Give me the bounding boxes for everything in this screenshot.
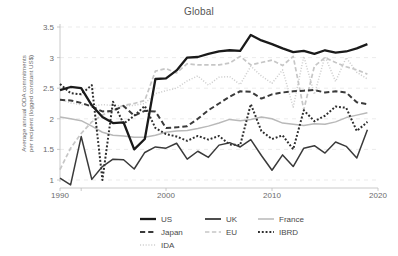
series-line-ida [60, 56, 367, 107]
legend-label-us[interactable]: US [161, 215, 172, 224]
x-tick-label: 2000 [157, 191, 175, 200]
y-axis-title: Average annual ODA commitmentsper recipi… [20, 55, 34, 152]
y-tick-label: 3.5 [43, 23, 55, 32]
legend-label-eu[interactable]: EU [226, 228, 237, 237]
legend-label-ibrd[interactable]: IBRD [279, 228, 298, 237]
y-tick-label: 1 [50, 176, 55, 185]
x-tick-label: 2010 [263, 191, 281, 200]
legend-label-uk[interactable]: UK [226, 215, 238, 224]
series-line-france [60, 113, 367, 137]
y-tick-label: 3 [50, 54, 55, 63]
legend-label-japan[interactable]: Japan [161, 228, 183, 237]
series-line-japan [60, 90, 367, 128]
legend-label-ida[interactable]: IDA [161, 241, 175, 250]
x-tick-label: 1990 [51, 191, 69, 200]
x-tick-labels: 1990200020102020 [51, 188, 387, 200]
y-tick-label: 2 [50, 115, 55, 124]
chart-root: Global 11.522.533.5 1990200020102020 Ave… [0, 0, 398, 256]
chart-legend: USUKFranceJapanEUIBRDIDA [140, 215, 304, 250]
series-line-eu [60, 56, 367, 169]
line-chart-canvas: 11.522.533.5 1990200020102020 Average an… [0, 0, 398, 256]
y-tick-label: 1.5 [43, 145, 55, 154]
series-line-us [60, 35, 367, 149]
y-tick-labels: 11.522.533.5 [43, 23, 60, 185]
y-tick-label: 2.5 [43, 84, 55, 93]
y-axis-title-line-2: per recipient (logged constant US$) [27, 55, 34, 152]
legend-label-france[interactable]: France [279, 215, 304, 224]
y-axis-title-line-1: Average annual ODA commitments [20, 55, 27, 152]
x-tick-label: 2020 [369, 191, 387, 200]
series-line-ibrd [60, 84, 367, 180]
